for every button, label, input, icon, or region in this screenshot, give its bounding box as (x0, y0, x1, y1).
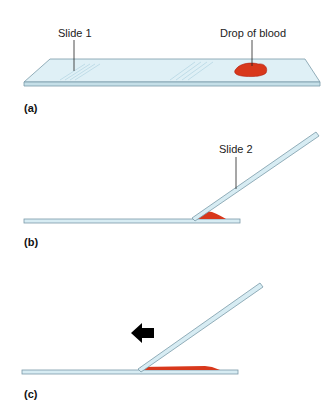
slide-2-b (192, 132, 319, 221)
slide-1-perspective (24, 59, 320, 86)
slide-1-label: Slide 1 (58, 27, 92, 39)
panel-b-label: (b) (24, 236, 38, 248)
panel-c-label: (c) (24, 388, 37, 400)
slide-2-label: Slide 2 (219, 143, 253, 155)
smear-diagram (0, 0, 330, 417)
blood-smear (140, 366, 220, 370)
panel-a-label: (a) (24, 102, 37, 114)
arrow-left-icon (131, 323, 154, 343)
slide-2-c (138, 283, 263, 372)
slide-1-side-c (22, 370, 238, 374)
slide-1-side-b (24, 219, 240, 223)
drop-of-blood-label: Drop of blood (220, 27, 286, 39)
